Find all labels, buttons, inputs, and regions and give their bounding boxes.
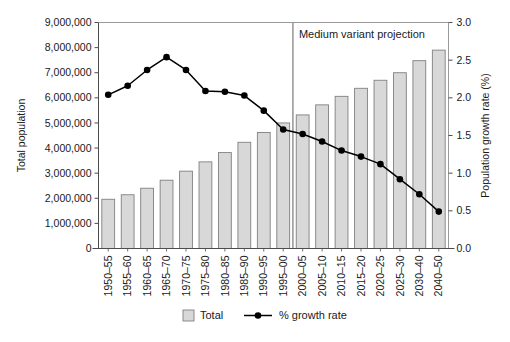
category-label: 1950–55 (102, 255, 114, 296)
left-axis-ticks: 01,000,0002,000,0003,000,0004,000,0005,0… (45, 16, 99, 254)
bar (121, 195, 134, 249)
category-label: 1965–70 (160, 255, 172, 296)
data-point (397, 176, 404, 183)
category-label: 1990–95 (257, 255, 269, 296)
right-tick-label: 2.5 (457, 54, 472, 66)
data-point (202, 88, 209, 95)
bar (355, 88, 368, 248)
left-axis-title: Total population (15, 99, 27, 173)
category-label: 1995–00 (277, 255, 289, 296)
data-point (222, 89, 229, 96)
data-point (377, 161, 384, 168)
bar (180, 171, 193, 248)
bar (257, 132, 270, 248)
bar (238, 142, 251, 248)
data-point (124, 82, 131, 89)
data-point (260, 107, 267, 114)
projection-annotation: Medium variant projection (299, 28, 425, 40)
data-point (358, 153, 365, 160)
legend-swatch-total (183, 310, 194, 321)
right-axis-title: Population growth rate (%) (479, 73, 491, 197)
data-point (416, 191, 423, 198)
bar (393, 73, 406, 249)
bar (160, 180, 173, 248)
legend-label-total: Total (200, 309, 223, 321)
right-tick-label: 0.0 (457, 242, 472, 254)
category-label: 2020–25 (374, 255, 386, 296)
right-tick-label: 2.0 (457, 91, 472, 103)
category-label: 2025–30 (394, 255, 406, 296)
growth-rate-line (108, 57, 439, 211)
category-label: 1980–85 (219, 255, 231, 296)
category-label: 2030–40 (413, 255, 425, 296)
bar (413, 61, 426, 249)
data-point (435, 208, 442, 215)
data-point (280, 126, 287, 133)
category-label: 1955–60 (121, 255, 133, 296)
bar (199, 162, 212, 249)
data-point (319, 138, 326, 145)
data-point (299, 131, 306, 138)
right-axis-ticks: 0.00.51.01.52.02.53.0 (449, 16, 472, 254)
data-point (241, 92, 248, 99)
right-tick-label: 0.5 (457, 204, 472, 216)
data-point (338, 147, 345, 154)
left-tick-label: 4,000,000 (45, 142, 92, 154)
population-growth-chart: Medium variant projection01,000,0002,000… (0, 0, 510, 342)
left-tick-label: 6,000,000 (45, 91, 92, 103)
bar (102, 199, 115, 248)
legend-dot-growth-rate (255, 312, 262, 319)
left-tick-label: 8,000,000 (45, 41, 92, 53)
bar (277, 123, 290, 249)
left-tick-label: 5,000,000 (45, 117, 92, 129)
category-label: 1960–65 (141, 255, 153, 296)
left-tick-label: 2,000,000 (45, 192, 92, 204)
bar-series (102, 50, 445, 248)
left-tick-label: 3,000,000 (45, 167, 92, 179)
bar (335, 96, 348, 248)
left-tick-label: 9,000,000 (45, 16, 92, 28)
left-tick-label: 0 (86, 242, 92, 254)
bar (316, 105, 329, 249)
chart-figure: Medium variant projection01,000,0002,000… (0, 0, 510, 342)
growth-rate-markers (105, 54, 442, 215)
chart-legend: Total% growth rate (183, 309, 347, 321)
category-label: 1970–75 (180, 255, 192, 296)
left-tick-label: 1,000,000 (45, 217, 92, 229)
data-point (163, 54, 170, 61)
data-point (183, 67, 190, 74)
data-point (105, 92, 112, 99)
right-tick-label: 1.0 (457, 167, 472, 179)
category-axis: 1950–551955–601960–651965–701970–751975–… (102, 249, 445, 297)
data-point (144, 67, 151, 74)
legend-label-growth-rate: % growth rate (279, 309, 347, 321)
category-label: 1975–80 (199, 255, 211, 296)
category-label: 2010–15 (335, 255, 347, 296)
bar (432, 50, 445, 248)
category-label: 2005–10 (316, 255, 328, 296)
left-tick-label: 7,000,000 (45, 66, 92, 78)
category-label: 2040–50 (432, 255, 444, 296)
category-label: 2000–05 (296, 255, 308, 296)
right-tick-label: 1.5 (457, 129, 472, 141)
right-tick-label: 3.0 (457, 16, 472, 28)
category-label: 2015–20 (355, 255, 367, 296)
category-label: 1985–90 (238, 255, 250, 296)
bar (218, 153, 231, 249)
bar (141, 188, 154, 248)
